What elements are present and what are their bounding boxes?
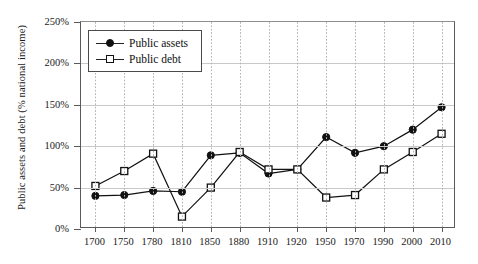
x-axis-tick-label: 2000 xyxy=(401,236,422,247)
y-axis-tick xyxy=(74,188,81,189)
x-axis-tick-label: 1880 xyxy=(228,236,249,247)
vertical-gridline xyxy=(211,22,212,227)
x-axis-tick-label: 1750 xyxy=(113,236,134,247)
y-axis-tick xyxy=(74,105,81,106)
vertical-gridline xyxy=(240,22,241,227)
x-axis-tick xyxy=(240,227,241,232)
horizontal-gridline xyxy=(81,188,454,189)
y-axis-tick-label: 250% xyxy=(45,16,70,27)
x-axis-tick-label: 1920 xyxy=(286,236,307,247)
x-axis-tick-label: 1910 xyxy=(257,236,278,247)
legend-item-public-assets: Public assets xyxy=(96,35,195,51)
x-axis-tick-label: 1700 xyxy=(84,236,105,247)
x-axis-tick xyxy=(153,227,154,232)
x-axis-tick xyxy=(182,227,183,232)
x-axis-tick-label: 1950 xyxy=(315,236,336,247)
x-axis-tick xyxy=(355,227,356,232)
chart-legend: Public assets Public debt xyxy=(88,30,202,72)
legend-label: Public assets xyxy=(129,37,188,49)
legend-item-public-debt: Public debt xyxy=(96,51,195,67)
x-axis-tick-label: 1810 xyxy=(170,236,191,247)
vertical-gridline xyxy=(413,22,414,227)
y-axis-tick-label: 50% xyxy=(50,181,69,192)
vertical-gridline xyxy=(384,22,385,227)
x-axis-tick-label: 1850 xyxy=(199,236,220,247)
y-axis-tick-label: 100% xyxy=(45,140,70,151)
vertical-gridline xyxy=(326,22,327,227)
x-axis-tick xyxy=(326,227,327,232)
x-axis-tick xyxy=(211,227,212,232)
vertical-gridline xyxy=(297,22,298,227)
open-square-marker-icon xyxy=(96,53,124,65)
vertical-gridline xyxy=(355,22,356,227)
x-axis-tick xyxy=(384,227,385,232)
vertical-gridline xyxy=(269,22,270,227)
horizontal-gridline xyxy=(81,146,454,147)
horizontal-gridline xyxy=(81,105,454,106)
x-axis-tick-label: 2010 xyxy=(430,236,451,247)
y-axis-title: Public assets and debt (% national incom… xyxy=(16,18,27,218)
y-axis-tick xyxy=(74,22,81,23)
y-axis-tick-label: 200% xyxy=(45,57,70,68)
legend-label: Public debt xyxy=(129,53,181,65)
x-axis-tick xyxy=(124,227,125,232)
x-axis-tick xyxy=(297,227,298,232)
x-axis-tick xyxy=(413,227,414,232)
y-axis-tick xyxy=(74,63,81,64)
vertical-gridline xyxy=(442,22,443,227)
x-axis-tick-label: 1780 xyxy=(142,236,163,247)
filled-circle-marker-icon xyxy=(96,37,124,49)
y-axis-tick xyxy=(74,146,81,147)
x-axis-tick-label: 1990 xyxy=(372,236,393,247)
chart-figure: Public assets and debt (% national incom… xyxy=(0,0,478,264)
y-axis-tick xyxy=(74,229,81,230)
x-axis-tick xyxy=(442,227,443,232)
y-axis-tick-label: 0% xyxy=(55,223,69,234)
x-axis-tick xyxy=(95,227,96,232)
y-axis-tick-label: 150% xyxy=(45,98,70,109)
x-axis-tick-label: 1970 xyxy=(344,236,365,247)
x-axis-tick xyxy=(269,227,270,232)
